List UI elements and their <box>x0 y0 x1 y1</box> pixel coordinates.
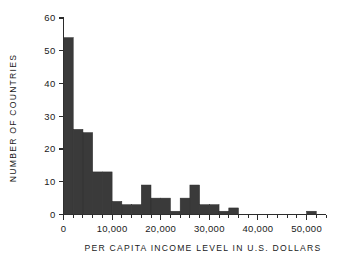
x-tick-label: 0 <box>61 223 67 234</box>
histogram-bar <box>161 198 171 214</box>
histogram-bar <box>64 38 74 215</box>
y-tick-label: 30 <box>44 111 55 122</box>
histogram-bar <box>190 185 200 214</box>
histogram-bar <box>112 201 122 214</box>
histogram-bar <box>93 172 103 215</box>
histogram-bar <box>102 172 112 215</box>
histogram-bar <box>83 133 93 215</box>
y-tick-label: 20 <box>44 143 55 154</box>
histogram-figure: 0102030405060 010,00020,00030,00040,0005… <box>0 0 342 263</box>
y-tick-label: 10 <box>44 176 55 187</box>
y-tick-label: 0 <box>50 209 56 220</box>
histogram-svg: 0102030405060 010,00020,00030,00040,0005… <box>0 0 342 263</box>
y-tick-label: 40 <box>44 78 55 89</box>
histogram-bar <box>200 205 210 215</box>
x-tick-label: 10,000 <box>97 223 128 234</box>
histogram-bar <box>219 211 229 214</box>
y-tick-label: 60 <box>44 12 55 23</box>
histogram-bar <box>229 208 239 215</box>
histogram-bar <box>170 211 180 214</box>
x-axis-title: PER CAPITA INCOME LEVEL IN U.S. DOLLARS <box>85 243 322 253</box>
y-tick-label: 50 <box>44 45 55 56</box>
x-tick-label: 40,000 <box>243 223 274 234</box>
histogram-bar <box>132 205 142 215</box>
y-axis-title: NUMBER OF COUNTRIES <box>8 54 18 182</box>
histogram-bar <box>180 198 190 214</box>
histogram-bar <box>151 198 161 214</box>
histogram-bar <box>141 185 151 214</box>
x-tick-label: 20,000 <box>145 223 176 234</box>
x-tick-label: 50,000 <box>291 223 322 234</box>
histogram-bar <box>209 205 219 215</box>
histogram-bar <box>122 205 132 215</box>
histogram-bar <box>73 129 83 214</box>
histogram-bar <box>307 211 317 214</box>
x-tick-label: 30,000 <box>194 223 225 234</box>
